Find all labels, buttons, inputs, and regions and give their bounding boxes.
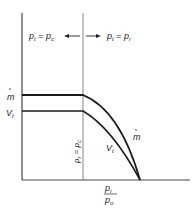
velocity-curve (22, 111, 140, 180)
curve-label-mdot: m (133, 132, 141, 142)
mass-flow-curve (22, 95, 140, 180)
y-label-mdot: m (7, 92, 15, 102)
curve-label-vt: Vt (106, 143, 114, 154)
right-arrow-icon (96, 34, 101, 38)
nozzle-flow-diagram: pt = pc pt = pr m Vt pr = pc m Vt pr po (0, 0, 195, 214)
divider-label: pr = pc (72, 140, 82, 164)
x-label-denominator: po (104, 195, 114, 206)
x-label-numerator: pr (104, 183, 113, 194)
region-right-label: pt = pr (106, 31, 132, 42)
region-left-label: pt = pc (28, 31, 54, 42)
left-arrow-icon (64, 34, 69, 38)
y-label-vt: Vt (6, 108, 14, 119)
